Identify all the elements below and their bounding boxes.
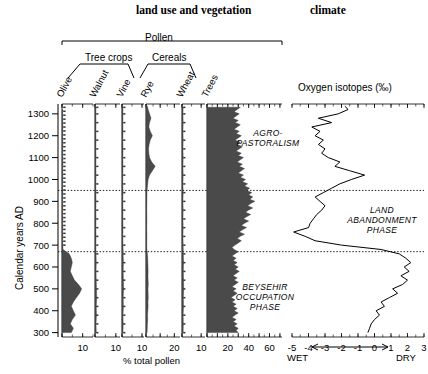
y-tick-label: 1100 xyxy=(29,152,49,163)
sample-marker xyxy=(96,253,98,255)
y-tick-label: 300 xyxy=(33,327,49,338)
annotation-line: LAND xyxy=(327,205,428,215)
y-tick-label: 800 xyxy=(33,218,49,229)
sample-marker xyxy=(183,253,185,255)
taxon-label-walnut: Walnut xyxy=(87,68,111,99)
sample-marker xyxy=(123,253,125,255)
sample-marker xyxy=(123,323,125,325)
sample-marker xyxy=(63,142,65,144)
sample-marker xyxy=(123,288,125,290)
sample-marker xyxy=(183,314,185,316)
sample-marker xyxy=(63,237,65,239)
sample-marker xyxy=(96,262,98,264)
taxon-label-olive: Olive xyxy=(54,75,74,99)
sample-marker xyxy=(183,288,185,290)
sample-marker xyxy=(123,314,125,316)
sample-marker xyxy=(96,227,98,229)
sample-marker xyxy=(123,271,125,273)
sample-marker xyxy=(183,306,185,308)
sample-marker xyxy=(183,113,185,115)
isotope-tick-label: -5 xyxy=(288,342,296,353)
taxon-label-vine: Vine xyxy=(114,77,133,99)
sample-marker xyxy=(63,166,65,168)
sample-marker xyxy=(183,192,185,194)
y-tick-label: 900 xyxy=(33,196,49,207)
sample-marker xyxy=(123,201,125,203)
sample-marker xyxy=(96,306,98,308)
sample-marker xyxy=(183,332,185,334)
isotope-tick-label: 3 xyxy=(421,342,426,353)
sample-marker xyxy=(123,174,125,176)
sample-marker xyxy=(96,166,98,168)
sample-marker xyxy=(183,139,185,141)
sample-marker xyxy=(96,288,98,290)
x-tick-label: 60 xyxy=(264,342,275,353)
sample-marker xyxy=(96,236,98,238)
x-axis-ticks: 1010102010204060 xyxy=(77,342,274,353)
x-tick-label: 10 xyxy=(137,342,148,353)
sample-marker xyxy=(63,181,65,183)
sample-marker xyxy=(183,107,185,109)
x-tick-label: 20 xyxy=(223,342,234,353)
sample-marker xyxy=(123,209,125,211)
x-tick-label: 40 xyxy=(243,342,254,353)
x-tick-label: 10 xyxy=(77,342,88,353)
sample-marker xyxy=(63,197,65,199)
sample-marker xyxy=(96,174,98,176)
sample-marker xyxy=(123,279,125,281)
sample-marker xyxy=(96,323,98,325)
sample-marker xyxy=(63,205,65,207)
annotation-line: BEYSEHIR xyxy=(210,282,320,292)
y-tick-label: 500 xyxy=(33,283,49,294)
y-tick-label: 1300 xyxy=(28,108,49,119)
sample-marker xyxy=(123,236,125,238)
pollen-diagram-figure: land use and vegetation climate Pollen T… xyxy=(0,0,428,374)
sample-marker xyxy=(96,131,98,133)
sample-marker xyxy=(183,227,185,229)
sample-marker xyxy=(63,122,65,124)
sample-marker xyxy=(63,240,65,242)
sample-marker xyxy=(63,225,65,227)
sample-marker xyxy=(123,183,125,185)
sample-marker xyxy=(96,244,98,246)
sample-marker xyxy=(63,209,65,211)
zone-annotation-beysehir: BEYSEHIROCCUPATIONPHASE xyxy=(210,282,320,312)
sample-marker xyxy=(183,166,185,168)
sample-marker xyxy=(123,262,125,264)
sample-marker xyxy=(96,139,98,141)
sample-marker xyxy=(123,113,125,115)
sample-marker xyxy=(63,134,65,136)
zone-annotation-land: LANDABANDONMENTPHASE xyxy=(327,205,428,235)
sample-marker xyxy=(123,192,125,194)
sample-marker xyxy=(96,183,98,185)
sample-marker xyxy=(63,126,65,128)
isotope-tick-label: 1 xyxy=(388,342,393,353)
sample-marker xyxy=(63,162,65,164)
sample-marker xyxy=(96,107,98,109)
sample-marker xyxy=(183,131,185,133)
sample-marker xyxy=(183,279,185,281)
sample-marker xyxy=(63,201,65,203)
sample-marker xyxy=(123,332,125,334)
annotation-line: PHASE xyxy=(210,302,320,312)
sample-marker xyxy=(123,166,125,168)
taxa-labels: OliveWalnutVineRyeWheatTrees xyxy=(54,68,220,99)
sample-marker xyxy=(96,314,98,316)
isotope-tick-label: -4 xyxy=(304,342,312,353)
sample-marker xyxy=(183,148,185,150)
sample-marker xyxy=(96,201,98,203)
sample-marker xyxy=(63,150,65,152)
sample-marker xyxy=(96,113,98,115)
y-tick-label: 1200 xyxy=(28,130,49,141)
sample-marker xyxy=(183,271,185,273)
sample-marker xyxy=(183,262,185,264)
taxon-label-rye: Rye xyxy=(138,79,156,99)
sample-marker xyxy=(63,177,65,179)
y-tick-label: 400 xyxy=(33,305,49,316)
sample-marker xyxy=(96,271,98,273)
sample-marker xyxy=(96,148,98,150)
sample-marker xyxy=(123,157,125,159)
diagram-canvas: OliveWalnutVineRyeWheatTrees -5-4-3-2-10… xyxy=(0,0,428,374)
annotation-line: PHASE xyxy=(327,225,428,235)
sample-marker xyxy=(123,139,125,141)
